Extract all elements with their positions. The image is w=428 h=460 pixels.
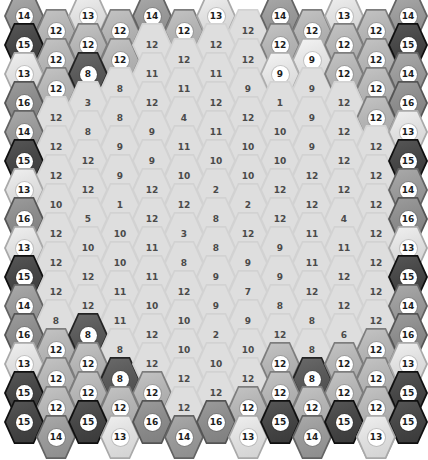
hex-tile-value: 12	[370, 259, 383, 268]
hex-tile-value: 16	[400, 211, 417, 228]
hex-tile-value: 8	[80, 327, 97, 344]
hex-tile-value: 10	[274, 128, 287, 137]
hex-tile-value: 10	[146, 302, 159, 311]
hex-tile-value: 8	[309, 346, 315, 355]
hex-tile-value: 12	[112, 52, 129, 69]
hex-tile-value: 12	[368, 52, 385, 69]
hex-tile-value: 10	[242, 143, 255, 152]
hex-tile-value: 12	[368, 23, 385, 40]
hex-tile-value: 13	[16, 182, 33, 199]
hex-tile-value: 12	[306, 201, 319, 210]
hex-tile-value: 15	[400, 37, 417, 54]
hex-tile-value: 5	[85, 215, 91, 224]
hex-tile-value: 9	[304, 52, 321, 69]
hex-tile-value: 13	[112, 429, 129, 446]
hex-tile-value: 12	[178, 288, 191, 297]
hex-tile-value: 2	[213, 186, 219, 195]
hex-tile-value: 10	[210, 360, 223, 369]
hex-tile-value: 15	[16, 153, 33, 170]
hex-tile-value: 12	[272, 37, 289, 54]
hex-tile-value: 14	[144, 8, 161, 25]
hex-tile-value: 8	[117, 346, 123, 355]
hex-tile-value: 7	[245, 288, 251, 297]
hex-tile-value: 14	[48, 429, 65, 446]
hex-tile-value: 12	[210, 99, 223, 108]
hex-tile-value: 12	[336, 66, 353, 83]
hex-tile-value: 12	[368, 400, 385, 417]
hex-tile-value: 8	[85, 128, 91, 137]
hex-tile-value: 9	[117, 143, 123, 152]
hex-tile-value: 12	[338, 186, 351, 195]
hex-tile-value: 12	[242, 375, 255, 384]
hex-tile-value: 15	[400, 269, 417, 286]
hex-tile-value: 15	[80, 414, 97, 431]
hex-tile-value: 12	[112, 23, 129, 40]
hex-tile-value: 12	[178, 404, 191, 413]
hex-tile-value: 15	[16, 37, 33, 54]
hex-tile-value: 12	[242, 114, 255, 123]
hex-tile-value: 12	[304, 23, 321, 40]
hex-tile-value: 1	[117, 201, 123, 210]
hex-tile-value: 16	[16, 95, 33, 112]
hex-tile-value: 10	[114, 259, 127, 268]
hex-tile-value: 12	[48, 400, 65, 417]
hex-tile-value: 9	[309, 114, 315, 123]
hex-tile-value: 9	[245, 85, 251, 94]
hex-tile-value: 12	[336, 385, 353, 402]
hex-tile-value: 11	[114, 288, 127, 297]
hex-tile-value: 12	[50, 114, 63, 123]
hex-tile-value: 8	[117, 114, 123, 123]
hex-tile-value: 12	[80, 356, 97, 373]
hex-tile-value: 14	[400, 66, 417, 83]
hex-tile-value: 8	[213, 215, 219, 224]
hex-tile-value: 12	[368, 371, 385, 388]
hex-tile-value: 12	[274, 186, 287, 195]
hex-tile-value: 12	[178, 201, 191, 210]
hex-tile-value: 9	[277, 273, 283, 282]
hex-tile-value: 13	[336, 8, 353, 25]
hex-tile-value: 8	[53, 317, 59, 326]
hex-tile-value: 10	[50, 201, 63, 210]
hex-tile-value: 12	[370, 201, 383, 210]
hex-tile-value: 2	[245, 201, 251, 210]
hex-tile-value: 10	[178, 172, 191, 181]
hex-tile-value: 10	[82, 244, 95, 253]
hex-tile-value: 16	[400, 327, 417, 344]
hex-tile-value: 9	[272, 66, 289, 83]
hex-tile-value: 12	[272, 385, 289, 402]
hex-tile-value: 2	[213, 331, 219, 340]
hex-tile-value: 11	[178, 143, 191, 152]
hex-tile-value: 12	[82, 273, 95, 282]
hex-tile-value: 12	[338, 302, 351, 311]
hex-tile-value: 13	[400, 356, 417, 373]
hex-tile-value: 6	[341, 331, 347, 340]
hex-tile-value: 12	[338, 128, 351, 137]
hex-tile-value: 4	[341, 215, 347, 224]
hex-tile-value: 8	[213, 244, 219, 253]
hex-tile-value: 10	[210, 157, 223, 166]
hex-tile-value: 12	[146, 41, 159, 50]
hex-tile-value: 12	[242, 56, 255, 65]
hex-tile-value: 15	[16, 414, 33, 431]
hex-tile-value: 13	[16, 240, 33, 257]
hex-tile-value: 13	[16, 356, 33, 373]
hex-tile-value: 9	[213, 273, 219, 282]
hex-tile-value: 10	[242, 346, 255, 355]
hex-tile-value: 8	[309, 317, 315, 326]
hex-tile-value: 12	[82, 157, 95, 166]
hex-tile-value: 9	[117, 172, 123, 181]
hex-tile-value: 11	[306, 230, 319, 239]
hex-tile-value: 12	[338, 99, 351, 108]
hex-tile-value: 9	[245, 259, 251, 268]
hex-tile-value: 16	[400, 95, 417, 112]
hex-tile-value: 4	[181, 114, 187, 123]
hex-tile-value: 13	[16, 66, 33, 83]
hex-tile-value: 12	[370, 143, 383, 152]
hex-tile-value: 8	[181, 259, 187, 268]
hex-tile-value: 14	[304, 429, 321, 446]
hex-tile-value: 9	[149, 128, 155, 137]
hex-tile-value: 16	[16, 211, 33, 228]
hex-tile-value: 13	[400, 124, 417, 141]
hex-tile-value: 8	[304, 371, 321, 388]
hex-tile-value: 10	[114, 230, 127, 239]
